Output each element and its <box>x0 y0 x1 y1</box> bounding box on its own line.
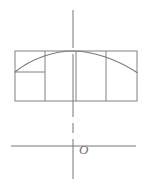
origin-label: O <box>79 143 88 156</box>
geometry-diagram <box>0 0 146 185</box>
figure-container: O <box>0 0 146 185</box>
